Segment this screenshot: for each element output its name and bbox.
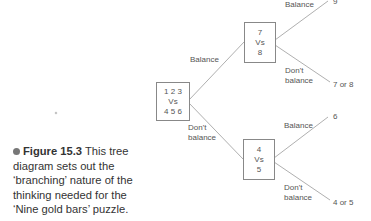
outcome-bottom-dont-balance: 4 or 5 bbox=[333, 198, 353, 208]
bottom-node-line2: Vs bbox=[244, 155, 274, 165]
figure-caption: Figure 15.3 This tree diagram sets out t… bbox=[13, 144, 148, 217]
bullet-icon bbox=[13, 148, 20, 155]
edge-label-top-dont-l2: balance bbox=[285, 76, 313, 86]
root-node-line3: 4 5 6 bbox=[157, 107, 189, 117]
top-node-line1: 7 bbox=[245, 28, 275, 38]
edge-label-root-balance: Balance bbox=[190, 55, 219, 65]
edge-label-root-dont-l1: Don't bbox=[188, 123, 216, 133]
edge-label-bottom-dont-l1: Don't bbox=[284, 183, 312, 193]
figure-label: Figure 15.3 bbox=[23, 145, 82, 157]
bottom-node-line1: 4 bbox=[244, 145, 274, 155]
root-node-line1: 1 2 3 bbox=[157, 87, 189, 97]
outcome-bottom-balance: 6 bbox=[333, 112, 337, 122]
top-node-line2: Vs bbox=[245, 38, 275, 48]
edge-root-to-top bbox=[189, 42, 244, 100]
edge-label-bottom-balance: Balance bbox=[284, 121, 313, 131]
edge-label-root-dont-balance: Don't balance bbox=[188, 123, 216, 143]
edge-label-root-dont-l2: balance bbox=[188, 133, 216, 143]
edge-label-top-balance: Balance bbox=[285, 0, 314, 10]
bottom-node: 4 Vs 5 bbox=[243, 139, 275, 180]
edge-label-top-dont-balance: Don't balance bbox=[285, 66, 313, 86]
root-node-line2: Vs bbox=[157, 97, 189, 107]
outcome-top-balance: 9 bbox=[333, 0, 337, 7]
edge-label-bottom-dont-balance: Don't balance bbox=[284, 183, 312, 203]
top-node: 7 Vs 8 bbox=[244, 22, 276, 63]
top-node-line3: 8 bbox=[245, 48, 275, 58]
edge-label-top-dont-l1: Don't bbox=[285, 66, 313, 76]
bottom-node-line3: 5 bbox=[244, 165, 274, 175]
outcome-top-dont-balance: 7 or 8 bbox=[333, 80, 353, 90]
edge-label-bottom-dont-l2: balance bbox=[284, 193, 312, 203]
root-node: 1 2 3 Vs 4 5 6 bbox=[156, 82, 190, 121]
